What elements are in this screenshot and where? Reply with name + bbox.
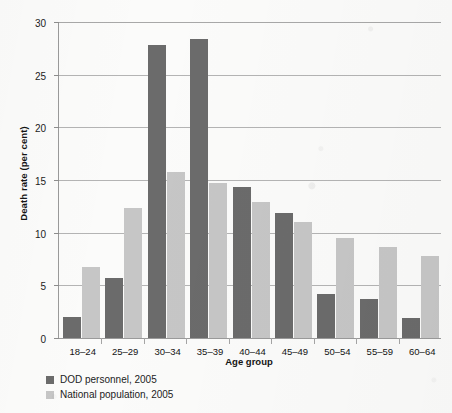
bar-dod: [190, 39, 208, 338]
y-axis-tick-label: 25: [35, 70, 46, 81]
bar-national: [252, 202, 270, 338]
legend-swatch-icon: [46, 391, 54, 399]
y-axis-tick: 15: [54, 180, 59, 181]
y-axis-tick-label: 5: [40, 281, 46, 292]
bar-dod: [402, 318, 420, 338]
plot-area: 051015202530 18–2425–2930–3435–3940–4445…: [58, 22, 441, 339]
chart-legend: DOD personnel, 2005National population, …: [46, 372, 346, 402]
bar-group: 45–49: [275, 22, 312, 338]
legend-label: National population, 2005: [60, 389, 173, 400]
x-axis-group-divider: [229, 338, 230, 344]
y-axis-tick-label: 0: [40, 334, 46, 345]
y-axis-tick: 10: [54, 233, 59, 234]
legend-item-national: National population, 2005: [46, 387, 346, 402]
bar-dod: [63, 317, 81, 338]
bar-chart-figure: Death rate (per cent) 051015202530 18–24…: [0, 0, 452, 413]
y-axis-tick: 30: [54, 22, 59, 23]
bar-group: 60–64: [402, 22, 439, 338]
bar-national: [294, 222, 312, 338]
y-axis-tick: 20: [54, 127, 59, 128]
x-axis-group-divider: [186, 338, 187, 344]
y-axis-tick-label: 10: [35, 228, 46, 239]
bar-group: 35–39: [190, 22, 227, 338]
bar-dod: [148, 45, 166, 338]
bar-national: [167, 172, 185, 338]
bar-dod: [105, 278, 123, 338]
y-axis-title: Death rate (per cent): [18, 74, 29, 274]
bar-group: 30–34: [148, 22, 185, 338]
bar-national: [209, 183, 227, 338]
bar-dod: [233, 187, 251, 338]
y-axis-tick: 25: [54, 75, 59, 76]
bar-national: [124, 208, 142, 338]
bar-group: 25–29: [105, 22, 142, 338]
bar-dod: [275, 213, 293, 338]
y-axis-tick-label: 30: [35, 18, 46, 29]
bar-national: [421, 256, 439, 338]
x-axis-group-divider: [356, 338, 357, 344]
bar-dod: [317, 294, 335, 338]
legend-swatch-icon: [46, 376, 54, 384]
legend-label: DOD personnel, 2005: [60, 374, 157, 385]
bar-group: 40–44: [233, 22, 270, 338]
legend-item-dod: DOD personnel, 2005: [46, 372, 346, 387]
bar-national: [82, 267, 100, 338]
x-axis-group-divider: [399, 338, 400, 344]
y-axis-tick: 0: [54, 338, 59, 339]
x-axis-title: Age group: [58, 356, 440, 367]
bar-group: 18–24: [63, 22, 100, 338]
bar-national: [336, 238, 354, 338]
y-axis-tick-label: 15: [35, 176, 46, 187]
x-axis-group-divider: [271, 338, 272, 344]
y-axis-tick-label: 20: [35, 123, 46, 134]
x-axis-group-divider: [314, 338, 315, 344]
x-axis-group-divider: [101, 338, 102, 344]
x-axis-group-divider: [144, 338, 145, 344]
bar-dod: [360, 299, 378, 338]
bar-national: [379, 247, 397, 338]
y-axis-tick: 5: [54, 285, 59, 286]
bar-group: 50–54: [317, 22, 354, 338]
bar-group: 55–59: [360, 22, 397, 338]
